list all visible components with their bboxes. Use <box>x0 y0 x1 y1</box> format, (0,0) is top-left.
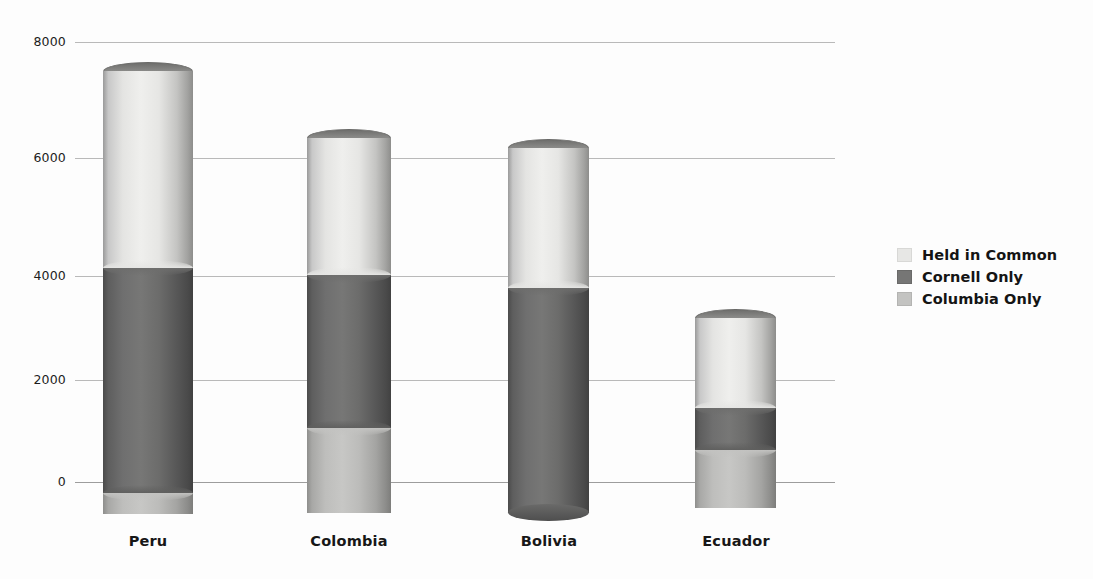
segment-held-in-common[interactable] <box>508 148 589 288</box>
gridline-8000 <box>75 42 835 43</box>
plot-area: 8000 6000 4000 2000 0 <box>0 0 860 579</box>
legend-label: Columbia Only <box>922 291 1042 307</box>
cylinder-bottom-cap <box>508 504 589 521</box>
ytick-label: 4000 <box>8 270 66 283</box>
segment-body <box>508 148 589 288</box>
segment-cornell-only[interactable] <box>508 288 589 513</box>
ytick-label: 0 <box>8 476 66 489</box>
bar-peru[interactable] <box>103 71 193 511</box>
segment-columbia-only[interactable] <box>307 428 391 513</box>
legend-swatch-icon <box>897 270 912 284</box>
segment-body <box>695 318 776 408</box>
segment-body <box>307 275 391 428</box>
xlabel-ecuador: Ecuador <box>692 534 780 549</box>
segment-body <box>508 288 589 513</box>
segment-cornell-only[interactable] <box>307 275 391 428</box>
ytick-label: 8000 <box>8 36 66 49</box>
cylinder-bottom-cap <box>695 499 776 516</box>
segment-body <box>307 138 391 275</box>
segment-body <box>103 268 193 493</box>
xlabel-peru: Peru <box>103 534 193 549</box>
chart-root: 8000 6000 4000 2000 0 <box>0 0 1093 579</box>
legend-item-cornell-only[interactable]: Cornell Only <box>897 267 1087 287</box>
bar-ecuador[interactable] <box>695 318 776 508</box>
bar-bolivia[interactable] <box>508 148 589 513</box>
chart-legend: Held in Common Cornell Only Columbia Onl… <box>897 245 1087 311</box>
legend-swatch-icon <box>897 248 912 262</box>
legend-item-held-in-common[interactable]: Held in Common <box>897 245 1087 265</box>
ytick-label: 2000 <box>8 374 66 387</box>
cylinder-bottom-cap <box>307 504 391 521</box>
segment-body <box>103 71 193 268</box>
xlabel-bolivia: Bolivia <box>505 534 593 549</box>
segment-body <box>307 428 391 513</box>
legend-label: Cornell Only <box>922 269 1023 285</box>
segment-held-in-common[interactable] <box>695 318 776 408</box>
legend-label: Held in Common <box>922 247 1057 263</box>
cylinder-bottom-cap <box>103 505 193 523</box>
segment-cornell-only[interactable] <box>103 268 193 493</box>
ytick-label: 6000 <box>8 152 66 165</box>
bar-colombia[interactable] <box>307 138 391 513</box>
legend-item-columbia-only[interactable]: Columbia Only <box>897 289 1087 309</box>
segment-held-in-common[interactable] <box>307 138 391 275</box>
xlabel-colombia: Colombia <box>302 534 396 549</box>
segment-held-in-common[interactable] <box>103 71 193 268</box>
legend-swatch-icon <box>897 292 912 306</box>
segment-body <box>695 408 776 450</box>
segment-cornell-only[interactable] <box>695 408 776 450</box>
